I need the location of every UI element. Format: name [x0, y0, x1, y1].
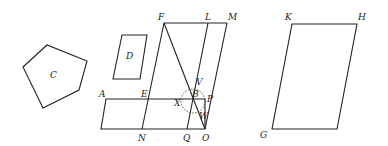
parallelogram-apo [101, 99, 205, 129]
label-w: W [199, 111, 209, 121]
label-d: D [125, 51, 133, 61]
line-fn [142, 23, 164, 129]
label-o: O [202, 133, 210, 143]
label-f: F [157, 12, 165, 22]
parallelogram-khg [272, 24, 357, 129]
label-m: M [227, 12, 238, 22]
label-v: V [196, 77, 204, 87]
label-p: P [206, 94, 214, 104]
label-c: C [50, 70, 57, 80]
label-k: K [284, 12, 293, 22]
label-l: L [204, 12, 211, 22]
label-a: A [98, 89, 106, 99]
label-q: Q [183, 133, 191, 143]
label-x: X [173, 98, 181, 108]
label-g: G [260, 130, 267, 140]
geometry-figure: C D A E F L M V B X P W N Q O K H G [0, 0, 388, 146]
label-e: E [140, 89, 148, 99]
label-n: N [137, 133, 147, 143]
line-mo [205, 23, 227, 129]
label-b: B [191, 89, 199, 99]
label-h: H [357, 12, 366, 22]
